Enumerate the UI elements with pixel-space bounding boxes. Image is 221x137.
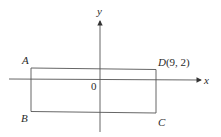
coordinate-diagram: y x 0 A B C D(9, 2) — [0, 0, 221, 137]
vertex-b-label: B — [21, 112, 28, 124]
vertex-d-label: D(9, 2) — [157, 56, 190, 69]
vertex-a-label: A — [21, 54, 29, 66]
x-axis — [9, 79, 201, 80]
y-axis-label: y — [96, 5, 102, 17]
vertex-d-coords: (9, 2) — [166, 56, 190, 69]
vertex-d-letter: D — [157, 56, 166, 68]
vertex-c-label: C — [158, 116, 166, 128]
origin-label: 0 — [91, 80, 97, 92]
x-axis-label: x — [203, 74, 209, 86]
